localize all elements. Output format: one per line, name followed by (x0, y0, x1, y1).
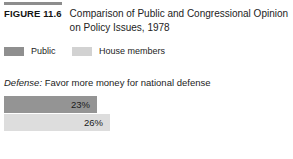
bar-value-public: 23% (71, 99, 97, 110)
figure-number-label: FIGURE 11.6 (4, 7, 70, 20)
legend-label-house-members: House members (99, 46, 165, 57)
bar-chart: 23% 26% (4, 96, 110, 131)
figure-top-rule (4, 2, 62, 5)
issue-question-text: Favor more money for national defense (42, 77, 210, 88)
legend-item-house-members: House members (72, 46, 165, 57)
legend-swatch-house-members-icon (72, 47, 92, 56)
issue-topic-label: Defense: (4, 77, 42, 88)
legend-label-public: Public (31, 46, 56, 57)
chart-legend: Public House members (4, 46, 165, 57)
figure-title: Comparison of Public and Congressional O… (70, 7, 290, 34)
legend-swatch-public-icon (4, 47, 24, 56)
legend-item-public: Public (4, 46, 72, 57)
issue-question-line: Defense: Favor more money for national d… (4, 77, 210, 89)
bar-house-members: 26% (4, 114, 110, 131)
bar-public: 23% (4, 96, 97, 113)
bar-value-house-members: 26% (84, 117, 110, 128)
figure-caption: FIGURE 11.6 Comparison of Public and Con… (4, 7, 290, 34)
